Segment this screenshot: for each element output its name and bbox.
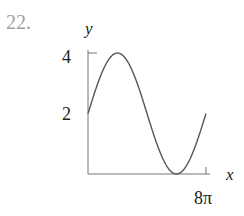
y-axis-label: y — [83, 19, 93, 38]
y-tick-label-4: 4 — [62, 47, 71, 67]
sine-graph: y 4 2 x 8π — [0, 0, 244, 216]
x-tick-label-8pi: 8π — [194, 188, 212, 208]
sine-curve — [88, 53, 206, 174]
x-axis-label: x — [225, 165, 234, 184]
y-tick-label-2: 2 — [62, 104, 71, 124]
